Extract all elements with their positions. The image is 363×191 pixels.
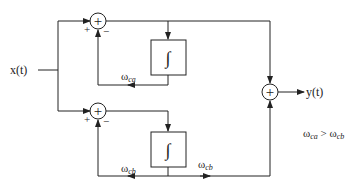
top-feedback-label: ωca: [121, 70, 136, 84]
bottom-plus-sign: +: [84, 113, 90, 125]
bottom-integrator-symbol: ∫: [165, 140, 172, 161]
top-plus-sign: +: [84, 23, 90, 35]
bottom-output-label: ωcb: [198, 158, 213, 172]
block-diagram: + + + ∫ ∫ + − + − x(t) y(t) ωca ωcb ωcb …: [0, 0, 363, 191]
condition-label: ωca > ωcb: [303, 127, 344, 141]
bottom-feedback-label: ωcb: [121, 162, 136, 176]
top-minus-sign: −: [103, 25, 109, 37]
output-label: y(t): [306, 85, 323, 99]
diagram-svg: + + + ∫ ∫ + − + − x(t) y(t) ωca ωcb ωcb …: [0, 0, 363, 191]
bottom-sum-symbol: +: [94, 103, 102, 119]
top-integrator-symbol: ∫: [165, 48, 172, 69]
bottom-minus-sign: −: [103, 115, 109, 127]
top-sum-symbol: +: [94, 13, 102, 29]
input-label: x(t): [10, 63, 27, 77]
output-sum-symbol: +: [266, 84, 274, 100]
